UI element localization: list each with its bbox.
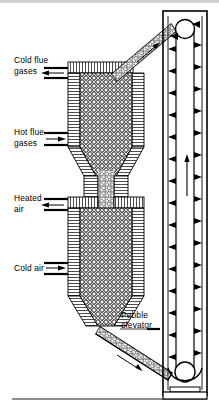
cold-flue-gases-port — [41, 68, 68, 78]
hot-flue-gases-label-line1: Hot flue — [14, 127, 44, 137]
heated-air-label-line1: Heated — [14, 193, 42, 203]
pebble-elevator-label-line1: Pebble — [121, 310, 148, 320]
hot-flue-gases-label-line2: gases — [14, 138, 37, 148]
pebble-elevator-label-line2: elevator — [121, 320, 152, 330]
cold-air-label: Cold air — [14, 263, 44, 273]
elevator-flow-arrow — [184, 154, 189, 196]
upper-vessel — [68, 62, 144, 182]
cold-flue-gases-label-line1: Cold flue — [14, 55, 49, 65]
hot-flue-gases-port — [44, 133, 68, 145]
heated-air-port — [41, 199, 68, 210]
cold-air-port — [44, 263, 68, 274]
elevator-base — [163, 387, 207, 399]
boot-pulley — [168, 362, 202, 382]
cold-flue-gases-label-line2: gases — [14, 66, 37, 76]
bottom-pebble-chute — [92, 322, 178, 384]
pebble-heater-diagram: Cold flue gases Hot flue gases Heated ai… — [0, 0, 219, 413]
heated-air-label-line2: air — [14, 204, 24, 214]
head-pulley — [176, 20, 195, 39]
